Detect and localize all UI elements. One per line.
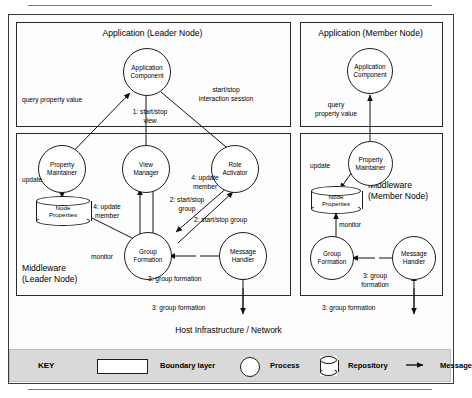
- key-message-label: Message: [440, 361, 472, 370]
- label-member-group-formation-network: 3: group formation: [322, 304, 376, 312]
- key-process-icon: [240, 357, 260, 377]
- member-middleware-box-title-line2: (Member Node): [368, 191, 446, 202]
- key-message-icon: [406, 358, 432, 372]
- cylinder-bottom: [320, 368, 337, 376]
- label-leader-start-stop-view-line1: 1: start/stop: [116, 108, 184, 116]
- leader-application-component-label: Application Component: [130, 64, 163, 79]
- leader-property-maintainer-label: Property Maintainer: [47, 161, 77, 176]
- key-boundary-layer-label: Boundary layer: [160, 361, 215, 370]
- leader-message-handler-label: Message Handler: [230, 248, 256, 263]
- label-leader-start-stop-group-ra: 2: start/stop group: [194, 216, 247, 224]
- label-leader-monitor: monitor: [91, 253, 113, 261]
- label-leader-interaction-session-line2: interaction session: [186, 95, 266, 103]
- label-member-query-line2: property value: [297, 110, 375, 118]
- key-repository-label: Repository: [348, 361, 388, 370]
- leader-view-manager-node[interactable]: View Manager: [122, 145, 170, 193]
- leader-middleware-box-title-line2: (Leader Node): [22, 274, 114, 285]
- leader-group-formation-label: Group Formation: [134, 248, 163, 263]
- page-rule-top: [28, 5, 432, 6]
- label-member-query-line1: query: [305, 101, 367, 109]
- leader-application-component-node[interactable]: Application Component: [123, 48, 171, 96]
- label-leader-group-formation-network: 3: group formation: [152, 304, 206, 312]
- leader-property-maintainer-node[interactable]: Property Maintainer: [38, 145, 86, 193]
- member-application-component-node[interactable]: Application Component: [347, 48, 393, 94]
- cylinder-top: [320, 356, 337, 364]
- label-member-group-formation-msg-line1: 3: group: [348, 272, 402, 280]
- label-member-update: update: [310, 162, 330, 170]
- label-leader-start-stop-group-vm-line1: 2: start/stop: [156, 196, 218, 204]
- label-leader-start-stop-view-line2: view: [116, 117, 184, 125]
- leader-node-properties-label: Node Properties: [49, 204, 77, 219]
- key-title: KEY: [38, 361, 54, 370]
- label-leader-update-member-vm-line2: member: [79, 212, 135, 220]
- leader-application-box-title: Application (Leader Node): [16, 28, 289, 39]
- leader-view-manager-label: View Manager: [133, 161, 158, 176]
- leader-message-handler-node[interactable]: Message Handler: [219, 232, 267, 280]
- label-leader-update-member-ra-line1: 4: update: [177, 174, 233, 182]
- label-leader-update-member-ra-line2: member: [177, 183, 233, 191]
- member-application-component-label: Application Component: [353, 63, 386, 78]
- host-infrastructure-label: Host Infrastructure / Network: [16, 325, 441, 335]
- label-member-monitor: monitor: [339, 221, 361, 229]
- member-group-formation-label: Group Formation: [318, 250, 347, 265]
- label-leader-interaction-session-line1: start/stop: [186, 86, 266, 94]
- leader-group-formation-node[interactable]: Group Formation: [124, 232, 172, 280]
- key-boundary-layer-icon: [97, 359, 148, 374]
- leader-node-properties-repository[interactable]: Node Properties: [36, 196, 90, 226]
- label-leader-start-stop-group-vm-line2: group: [156, 205, 218, 213]
- member-node-properties-repository[interactable]: Node Properties: [311, 186, 361, 214]
- leader-middleware-box-title-line1: Middleware: [22, 263, 114, 274]
- label-leader-update-member-vm-line1: 4: update: [79, 203, 135, 211]
- member-application-box-title: Application (Member Node): [300, 28, 441, 39]
- label-leader-group-formation-message: 3: group formation: [148, 275, 202, 283]
- member-node-properties-label: Node Properties: [322, 193, 350, 208]
- page-rule-bottom: [28, 389, 432, 390]
- key-process-label: Process: [270, 361, 300, 370]
- member-property-maintainer-node[interactable]: Property Maintainer: [348, 141, 393, 186]
- member-property-maintainer-label: Property Maintainer: [356, 156, 386, 171]
- key-repository-icon: [320, 356, 337, 376]
- member-message-handler-label: Message Handler: [401, 250, 427, 265]
- label-leader-update: update: [22, 176, 42, 184]
- label-member-group-formation-msg-line2: formation: [348, 281, 402, 289]
- label-leader-query-property-value: query property value: [22, 96, 82, 104]
